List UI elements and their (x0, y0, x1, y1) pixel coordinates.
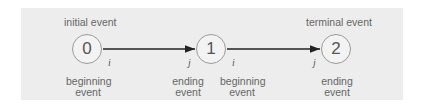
edge-1-2-tail-label: i (232, 57, 235, 68)
edge-1-2-head-label: j (313, 57, 316, 68)
node-0-bottom-label: beginning event (66, 76, 110, 98)
node-2: 2 (321, 34, 351, 64)
edge-0-1-tail-label: i (108, 57, 111, 68)
node-2-bottom-label: ending event (319, 76, 355, 98)
edge-0-1-head-label: j (188, 57, 191, 68)
initial-event-label: initial event (64, 17, 117, 28)
terminal-event-label: terminal event (306, 17, 372, 28)
label-line: event (170, 87, 206, 98)
node-0: 0 (72, 34, 102, 64)
label-line: event (319, 87, 355, 98)
node-0-id: 0 (82, 39, 91, 59)
node-1: 1 (196, 34, 226, 64)
node-1-ending-label: ending event (170, 76, 206, 98)
node-1-id: 1 (206, 39, 215, 59)
label-line: event (66, 87, 110, 98)
node-1-beginning-label: beginning event (220, 76, 264, 98)
node-2-id: 2 (331, 39, 340, 59)
label-line: event (220, 87, 264, 98)
